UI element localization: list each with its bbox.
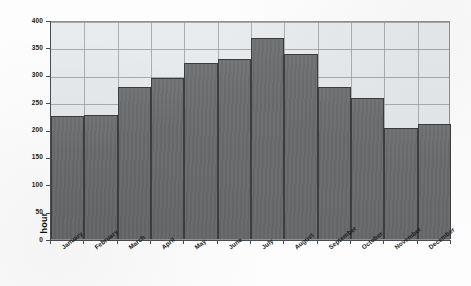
y-tick-label-150: 150 [0,154,43,161]
y-tick-label-0: 0 [0,237,43,244]
y-axis-line [50,21,51,241]
x-tick-11 [417,240,418,244]
bar-april [151,78,184,240]
x-tick-8 [317,240,318,244]
y-tick-label-350: 350 [0,45,43,52]
y-axis-label: hour [39,193,49,253]
bar-march [118,87,151,239]
x-tick-0 [50,240,51,244]
y-tick-label-300: 300 [0,72,43,79]
x-tick-2 [117,240,118,244]
scanned-page: hour 050100150200250300350400 JanuaryFeb… [0,0,471,286]
bar-series [51,22,449,239]
x-tick-5 [217,240,218,244]
bar-may [184,63,217,239]
bar-december [418,124,451,239]
bar-june [218,59,251,239]
x-tick-6 [250,240,251,244]
plot-area [50,21,450,240]
x-tick-9 [350,240,351,244]
bar-september [318,87,351,239]
x-tick-1 [83,240,84,244]
x-tick-4 [183,240,184,244]
x-tick-12 [450,240,451,244]
x-tick-10 [383,240,384,244]
bar-february [84,115,117,239]
y-tick-label-250: 250 [0,100,43,107]
bar-august [284,54,317,239]
bar-october [351,98,384,239]
y-tick-label-50: 50 [0,209,43,216]
bar-january [51,116,84,239]
y-tick-label-400: 400 [0,18,43,25]
y-tick-label-200: 200 [0,127,43,134]
bar-november [384,128,417,239]
bar-july [251,38,284,239]
bar-chart: hour 050100150200250300350400 JanuaryFeb… [0,0,471,286]
x-tick-7 [283,240,284,244]
x-tick-3 [150,240,151,244]
y-tick-label-100: 100 [0,182,43,189]
